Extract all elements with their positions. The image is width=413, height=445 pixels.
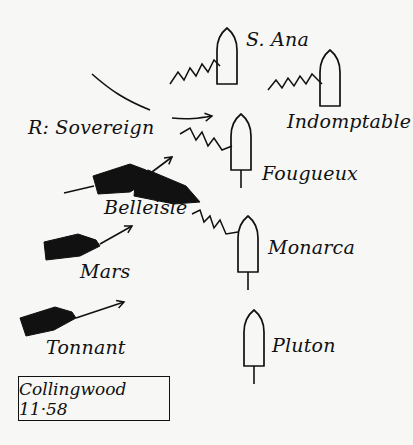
enemy-ships-group <box>170 28 340 384</box>
british-ship-label: R: Sovereign <box>28 118 154 137</box>
ship-hull-filled-icon <box>44 234 100 260</box>
ship-hull-outline-icon <box>244 310 264 366</box>
british-ship-3 <box>44 226 132 260</box>
british-ship-label: Belleisle <box>104 198 188 217</box>
enemy-ship-4 <box>192 210 258 290</box>
heading-arrow-icon <box>76 302 124 318</box>
british-ship-label: Mars <box>80 262 130 281</box>
enemy-ship-1 <box>170 28 237 84</box>
enemy-ship-label: Fougueux <box>262 164 358 183</box>
enemy-ship-5 <box>244 310 264 384</box>
enemy-ship-label: S. Ana <box>246 30 309 49</box>
heading-arrow-icon <box>172 116 212 119</box>
gunfire-zigzag-icon <box>180 128 232 150</box>
gunfire-zigzag-icon <box>268 74 322 90</box>
heading-arrow-icon <box>148 157 172 175</box>
enemy-ship-3 <box>180 114 251 188</box>
heading-arrow-icon <box>100 226 132 244</box>
caption-title: Collingwood 11·58 <box>19 379 169 419</box>
ship-hull-outline-icon <box>231 114 251 170</box>
gunfire-zigzag-icon <box>170 60 220 84</box>
british-ship-label: Tonnant <box>46 338 126 357</box>
enemy-ship-2 <box>268 50 340 106</box>
ship-hull-outline-icon <box>238 216 258 272</box>
ship-hull-outline-icon <box>217 28 237 84</box>
gunfire-zigzag-icon <box>192 210 238 234</box>
british-ship-4 <box>20 302 124 336</box>
wake-line <box>92 74 150 110</box>
enemy-ship-label: Monarca <box>268 238 355 257</box>
enemy-ship-label: Indomptable <box>287 112 411 131</box>
enemy-ship-label: Pluton <box>272 336 336 355</box>
ship-hull-outline-icon <box>320 50 340 106</box>
ship-hull-filled-icon <box>20 307 76 336</box>
wake-line <box>64 186 94 193</box>
caption-box: Collingwood 11·58 <box>18 376 170 421</box>
